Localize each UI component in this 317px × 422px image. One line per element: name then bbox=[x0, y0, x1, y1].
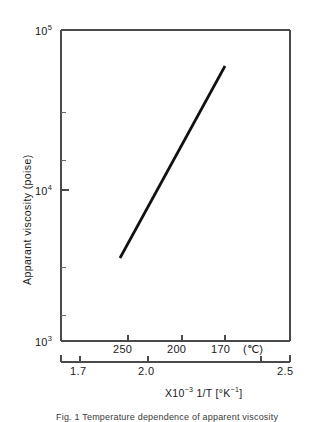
temperature-axis-ticks bbox=[128, 335, 225, 341]
y-axis-minor-ticks bbox=[61, 112, 66, 315]
data-series-apparent-viscosity bbox=[120, 66, 225, 258]
x-secondary-axis bbox=[61, 355, 290, 362]
viscosity-trend-line bbox=[120, 66, 225, 258]
plot-frame bbox=[61, 30, 290, 341]
